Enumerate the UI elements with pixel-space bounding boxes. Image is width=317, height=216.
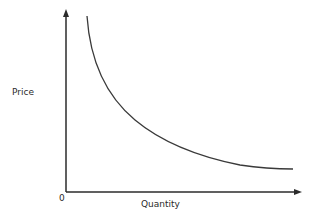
chart-canvas — [0, 0, 317, 216]
demand-curve — [87, 16, 293, 169]
x-axis-label: Quantity — [141, 199, 180, 209]
y-axis-label: Price — [12, 87, 34, 97]
origin-label: 0 — [59, 193, 65, 203]
